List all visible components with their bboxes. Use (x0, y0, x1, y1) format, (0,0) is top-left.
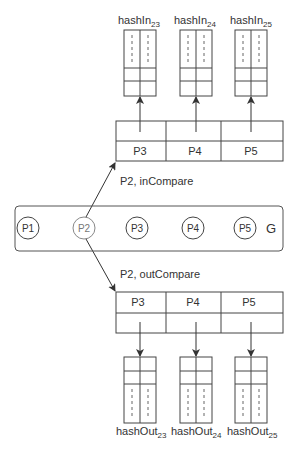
hash-in-table-23 (124, 30, 156, 96)
hash-in-label-23: hashIn23 (118, 14, 160, 29)
hash-out-tables (124, 357, 267, 423)
svg-text:P1: P1 (22, 223, 35, 234)
node-p3: P3 (126, 217, 148, 239)
out-compare-table: P3 P4 P5 (116, 292, 283, 333)
hash-in-table-24 (180, 30, 212, 96)
hash-in-table-25 (235, 30, 267, 96)
hash-out-table-25 (235, 357, 267, 423)
out-cell-p4: P4 (186, 296, 199, 308)
graph-g: P1 P2 P3 P4 P5 G (15, 206, 283, 251)
hash-out-label-25: hashOut25 (227, 425, 278, 440)
in-cell-p4: P4 (188, 145, 201, 157)
arrow-p2-in-compare (86, 163, 115, 217)
svg-text:P4: P4 (187, 223, 200, 234)
out-compare-edge-label: P2, outCompare (120, 268, 200, 280)
hash-in-label-24: hashIn24 (174, 14, 216, 29)
svg-text:P3: P3 (131, 223, 144, 234)
hash-in-label-25: hashIn25 (230, 14, 272, 29)
hash-out-table-24 (180, 357, 212, 423)
hash-out-label-23: hashOut23 (116, 425, 167, 440)
out-cell-p5: P5 (242, 296, 255, 308)
node-p5: P5 (234, 217, 256, 239)
in-compare-table: P3 P4 P5 (116, 121, 283, 161)
graph-label: G (266, 221, 276, 236)
svg-text:P2: P2 (78, 223, 91, 234)
arrow-p2-out-compare (86, 239, 115, 291)
node-p1: P1 (17, 217, 39, 239)
in-cell-p3: P3 (133, 145, 146, 157)
in-cell-p5: P5 (244, 145, 257, 157)
out-cell-p3: P3 (131, 296, 144, 308)
hash-out-table-23 (124, 357, 156, 423)
node-p4: P4 (182, 217, 204, 239)
node-p2: P2 (73, 217, 95, 239)
hash-out-label-24: hashOut24 (171, 425, 222, 440)
hash-in-tables (124, 30, 267, 96)
in-compare-edge-label: P2, inCompare (120, 175, 193, 187)
diagram-canvas: hashIn23 hashIn24 hashIn25 P3 P4 P5 P2, … (0, 0, 297, 450)
svg-text:P5: P5 (239, 223, 252, 234)
